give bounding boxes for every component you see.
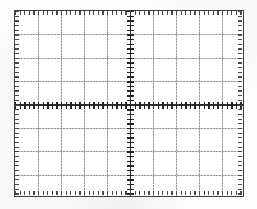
frame-edge-tick-right [238, 86, 242, 87]
frame-edge-tick-bottom [47, 191, 48, 195]
frame-edge-tick-right [238, 184, 242, 185]
vertical-axis-tick [127, 44, 134, 45]
frame-edge-tick-right [238, 76, 242, 77]
horizontal-axis-tick [130, 102, 131, 109]
frame-edge-tick-right [238, 123, 242, 124]
frame-edge-tick-bottom [125, 191, 126, 195]
frame-edge-tick-bottom [176, 191, 177, 195]
frame-edge-tick-top [52, 11, 53, 15]
horizontal-axis-tick [112, 102, 113, 109]
frame-edge-tick-right [238, 34, 242, 35]
frame-edge-tick-top [116, 11, 117, 15]
vertical-axis-tick [127, 170, 134, 171]
vertical-axis-tick [127, 151, 134, 152]
horizontal-axis-tick [98, 102, 99, 109]
frame-edge-tick-top [158, 11, 159, 15]
frame-edge-tick-bottom [79, 191, 80, 195]
vertical-axis-tick [127, 142, 134, 143]
frame-edge-tick-left [15, 133, 19, 134]
horizontal-axis-tick [29, 102, 30, 109]
frame-edge-tick-left [15, 81, 19, 82]
frame-edge-tick-bottom [231, 191, 232, 195]
frame-edge-tick-top [185, 11, 186, 15]
horizontal-axis-tick [167, 102, 168, 109]
frame-edge-tick-top [139, 11, 140, 15]
vertical-axis-tick [127, 189, 134, 190]
frame-edge-tick-right [238, 156, 242, 157]
frame-edge-tick-left [15, 67, 19, 68]
frame-edge-tick-bottom [148, 191, 149, 195]
horizontal-axis-tick [70, 102, 71, 109]
frame-edge-tick-left [15, 76, 19, 77]
frame-edge-tick-top [33, 11, 34, 15]
frame-edge-tick-left [15, 114, 19, 115]
frame-edge-tick-right [238, 114, 242, 115]
frame-edge-tick-left [15, 53, 19, 54]
vertical-axis-tick [127, 133, 134, 134]
frame-edge-tick-top [107, 11, 108, 15]
vertical-axis-tick [127, 39, 134, 40]
frame-edge-tick-bottom [222, 191, 223, 195]
horizontal-axis-tick [176, 102, 177, 109]
horizontal-axis-tick [144, 102, 145, 109]
horizontal-axis-tick [171, 102, 172, 109]
frame-edge-tick-left [15, 109, 19, 110]
frame-edge-tick-right [238, 95, 242, 96]
frame-edge-tick-top [144, 11, 145, 15]
frame-edge-tick-right [238, 193, 242, 194]
frame-edge-tick-left [15, 90, 19, 91]
frame-edge-tick-top [176, 11, 177, 15]
frame-edge-tick-top [199, 11, 200, 15]
horizontal-axis-tick [194, 102, 195, 109]
frame-edge-tick-right [238, 189, 242, 190]
horizontal-axis-tick [20, 102, 21, 109]
frame-edge-tick-top [56, 11, 57, 15]
horizontal-axis-tick [213, 102, 214, 109]
frame-edge-tick-top [89, 11, 90, 15]
frame-edge-tick-right [238, 53, 242, 54]
horizontal-axis-tick [217, 102, 218, 109]
frame-edge-tick-bottom [227, 191, 228, 195]
frame-edge-tick-left [15, 100, 19, 101]
frame-edge-tick-left [15, 58, 19, 59]
frame-edge-tick-top [70, 11, 71, 15]
frame-edge-tick-right [238, 119, 242, 120]
frame-edge-tick-left [15, 72, 19, 73]
frame-edge-tick-bottom [121, 191, 122, 195]
horizontal-axis-tick [162, 102, 163, 109]
frame-edge-tick-top [181, 11, 182, 15]
frame-edge-tick-right [238, 44, 242, 45]
vertical-axis-tick [127, 137, 134, 138]
frame-edge-tick-left [15, 137, 19, 138]
frame-edge-tick-left [15, 189, 19, 190]
frame-edge-tick-bottom [217, 191, 218, 195]
frame-edge-tick-bottom [98, 191, 99, 195]
frame-edge-tick-bottom [84, 191, 85, 195]
frame-edge-tick-top [47, 11, 48, 15]
frame-edge-tick-top [75, 11, 76, 15]
frame-edge-tick-right [238, 67, 242, 68]
frame-edge-tick-top [194, 11, 195, 15]
horizontal-axis-tick [84, 102, 85, 109]
horizontal-axis-tick [61, 102, 62, 109]
horizontal-axis-tick [121, 102, 122, 109]
frame-edge-tick-left [15, 193, 19, 194]
vertical-axis-tick [127, 53, 134, 54]
frame-edge-tick-left [15, 156, 19, 157]
frame-edge-tick-left [15, 16, 19, 17]
vertical-axis-tick [127, 16, 134, 17]
frame-edge-tick-left [15, 142, 19, 143]
frame-edge-tick-right [238, 105, 242, 106]
horizontal-axis-tick [89, 102, 90, 109]
horizontal-axis-tick [158, 102, 159, 109]
frame-edge-tick-bottom [139, 191, 140, 195]
vertical-axis-tick [127, 179, 134, 180]
frame-edge-tick-top [135, 11, 136, 15]
frame-edge-tick-bottom [70, 191, 71, 195]
frame-edge-tick-top [171, 11, 172, 15]
horizontal-axis-tick [125, 102, 126, 109]
horizontal-axis-tick [52, 102, 53, 109]
frame-edge-tick-left [15, 179, 19, 180]
frame-edge-tick-right [238, 137, 242, 138]
frame-edge-tick-left [15, 161, 19, 162]
